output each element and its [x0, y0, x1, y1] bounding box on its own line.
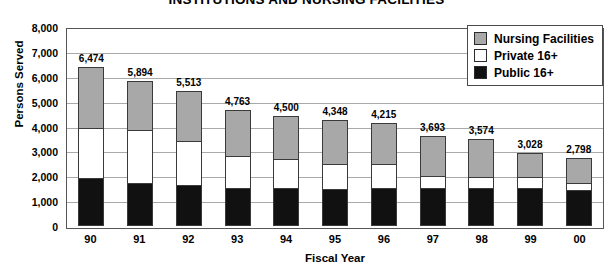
y-axis-tick-label: 3,000 — [32, 147, 58, 157]
legend-item[interactable]: Public 16+ — [474, 64, 594, 81]
bar-segment-private-16plus — [273, 159, 299, 189]
stacked-bar[interactable] — [176, 91, 202, 228]
x-axis-tick-label: 97 — [408, 233, 457, 249]
y-axis-tick-label: 6,000 — [32, 73, 58, 83]
chart-legend: Nursing FacilitiesPrivate 16+Public 16+ — [467, 25, 603, 86]
bar-column: 4,348 — [311, 29, 360, 228]
bar-segment-nursing-facilities — [468, 139, 494, 178]
bar-value-label: 5,513 — [176, 77, 201, 88]
bar-value-label: 4,215 — [371, 109, 396, 120]
legend-swatch-icon — [474, 66, 487, 79]
stacked-bar[interactable] — [468, 139, 494, 228]
bar-segment-public-16plus — [420, 188, 446, 226]
bar-segment-nursing-facilities — [273, 116, 299, 160]
x-axis-tick-label: 93 — [213, 233, 262, 249]
x-axis-tick-label: 92 — [164, 233, 213, 249]
bar-segment-private-16plus — [78, 128, 104, 180]
x-axis-tick-label: 98 — [457, 233, 506, 249]
stacked-bar[interactable] — [566, 158, 592, 228]
y-axis-tick-label: 1,000 — [32, 197, 58, 207]
legend-item[interactable]: Private 16+ — [474, 47, 594, 64]
bar-column: 4,763 — [213, 29, 262, 228]
bar-segment-nursing-facilities — [420, 136, 446, 177]
bar-segment-public-16plus — [273, 188, 299, 226]
bar-segment-public-16plus — [127, 183, 153, 226]
bar-segment-nursing-facilities — [322, 120, 348, 165]
bar-segment-nursing-facilities — [78, 67, 104, 129]
x-axis-tick-labels: 9091929394959697989900 — [66, 233, 604, 249]
y-axis-tick-label: 4,000 — [32, 123, 58, 133]
bar-segment-private-16plus — [225, 156, 251, 189]
x-axis-tick-label: 00 — [555, 233, 604, 249]
bar-segment-nursing-facilities — [517, 153, 543, 179]
y-axis-tick-label: 0 — [52, 222, 58, 232]
bar-segment-public-16plus — [566, 190, 592, 226]
stacked-bar[interactable] — [517, 153, 543, 228]
legend-item[interactable]: Nursing Facilities — [474, 30, 594, 47]
bar-value-label: 4,763 — [225, 96, 250, 107]
bar-segment-public-16plus — [468, 188, 494, 226]
x-axis-tick-label: 94 — [262, 233, 311, 249]
bar-segment-public-16plus — [176, 185, 202, 226]
bar-value-label: 3,693 — [420, 122, 445, 133]
stacked-bar-chart: INSTITUTIONS AND NURSING FACILITIES Pers… — [0, 0, 613, 274]
legend-swatch-icon — [474, 32, 487, 45]
bar-segment-public-16plus — [371, 188, 397, 226]
y-axis-tick-label: 5,000 — [32, 98, 58, 108]
stacked-bar[interactable] — [273, 116, 299, 228]
bar-value-label: 5,894 — [128, 67, 153, 78]
x-axis-tick-label: 96 — [359, 233, 408, 249]
y-axis-tick-label: 8,000 — [32, 23, 58, 33]
stacked-bar[interactable] — [371, 123, 397, 228]
bar-column: 4,500 — [262, 29, 311, 228]
bar-segment-nursing-facilities — [176, 91, 202, 143]
y-axis-tick-label: 7,000 — [32, 48, 58, 58]
x-axis-title: Fiscal Year — [66, 252, 604, 264]
x-axis-tick-label: 90 — [66, 233, 115, 249]
legend-swatch-icon — [474, 49, 487, 62]
y-axis-tick-labels: 8,0007,0006,0005,0004,0003,0002,0001,000… — [0, 0, 62, 274]
bar-segment-nursing-facilities — [225, 110, 251, 158]
bar-segment-public-16plus — [322, 189, 348, 226]
bar-column: 3,693 — [408, 29, 457, 228]
bar-segment-private-16plus — [322, 164, 348, 189]
legend-label: Public 16+ — [494, 66, 554, 80]
bar-column: 6,474 — [67, 29, 116, 228]
y-axis-tick-label: 2,000 — [32, 172, 58, 182]
bar-segment-private-16plus — [127, 130, 153, 184]
bar-segment-public-16plus — [225, 188, 251, 226]
bar-value-label: 2,798 — [566, 144, 591, 155]
x-axis-tick-label: 99 — [506, 233, 555, 249]
bar-column: 5,513 — [164, 29, 213, 228]
bar-value-label: 6,474 — [79, 53, 104, 64]
bar-value-label: 3,028 — [517, 139, 542, 150]
x-axis-tick-label: 91 — [115, 233, 164, 249]
chart-title: INSTITUTIONS AND NURSING FACILITIES — [0, 0, 613, 7]
bar-segment-nursing-facilities — [127, 81, 153, 131]
bar-column: 4,215 — [359, 29, 408, 228]
bar-value-label: 3,574 — [469, 125, 494, 136]
bar-segment-private-16plus — [176, 141, 202, 186]
bar-value-label: 4,500 — [274, 102, 299, 113]
legend-label: Nursing Facilities — [494, 32, 594, 46]
bar-segment-nursing-facilities — [371, 123, 397, 165]
stacked-bar[interactable] — [78, 67, 104, 228]
legend-label: Private 16+ — [494, 49, 558, 63]
stacked-bar[interactable] — [322, 120, 348, 228]
stacked-bar[interactable] — [420, 136, 446, 228]
bar-segment-public-16plus — [517, 188, 543, 226]
x-axis-tick-label: 95 — [311, 233, 360, 249]
stacked-bar[interactable] — [127, 81, 153, 228]
bar-segment-private-16plus — [371, 164, 397, 189]
bar-value-label: 4,348 — [323, 106, 348, 117]
bar-segment-public-16plus — [78, 178, 104, 226]
stacked-bar[interactable] — [225, 110, 251, 228]
bar-column: 5,894 — [116, 29, 165, 228]
bar-segment-nursing-facilities — [566, 158, 592, 184]
